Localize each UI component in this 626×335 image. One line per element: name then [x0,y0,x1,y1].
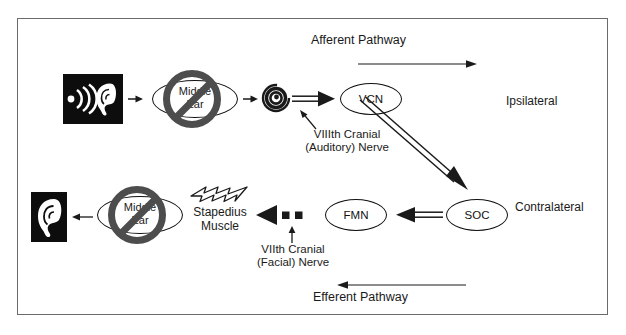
soc-nucleus-oval: SOC [446,199,508,231]
diagram-canvas: Afferent Pathway Middle Ear [0,0,626,335]
arrow-cochlea-to-vcn [292,90,336,108]
sound-wave-ear-icon [63,74,123,124]
arrow-middle-ear-to-cochlea [243,93,259,105]
contralateral-label: Contralateral [515,201,584,214]
arrow-fmn-to-stapedius [256,205,316,225]
afferent-pathway-label: Afferent Pathway [311,34,406,47]
ipsilateral-label: Ipsilateral [506,95,557,108]
diagram-frame [17,18,608,315]
facial-nerve-pointer-arrow [286,226,298,244]
soc-label: SOC [465,209,490,221]
stapedius-label-line1: Stapedius [189,205,251,219]
arrow-vcn-to-soc [358,98,473,198]
stapedius-muscle-label: Stapedius Muscle [189,205,251,233]
efferent-pathway-label: Efferent Pathway [313,291,408,304]
ear-icon [31,192,67,242]
facial-nerve-label: VIIth Cranial (Facial) Nerve [236,243,350,269]
facial-nerve-label-line2: (Facial) Nerve [236,256,350,269]
afferent-pathway-arrow [358,58,478,70]
auditory-nerve-pointer-arrow [299,110,323,130]
arrow-soc-to-fmn [396,206,444,224]
fmn-label: FMN [344,209,369,221]
stapedius-label-line2: Muscle [189,219,251,233]
facial-nerve-label-line1: VIIth Cranial [236,243,350,256]
cochlea-spiral-icon [261,83,291,113]
fmn-nucleus-oval: FMN [325,199,387,231]
arrow-middle-ear-to-ear [72,211,94,223]
arrow-ear-to-middle-ear [128,93,144,105]
